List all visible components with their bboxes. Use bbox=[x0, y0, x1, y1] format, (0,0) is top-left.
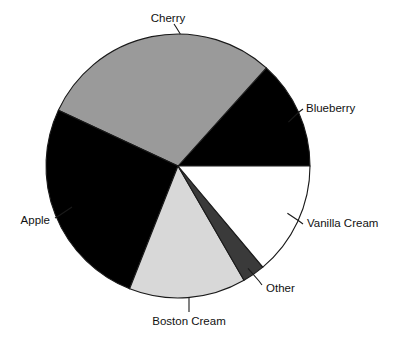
slice-label-other: Other bbox=[266, 282, 295, 294]
slice-label-blueberry: Blueberry bbox=[306, 102, 355, 114]
slice-label-vanilla-cream: Vanilla Cream bbox=[307, 217, 378, 229]
slice-label-apple: Apple bbox=[21, 214, 50, 226]
leader-line-cherry bbox=[174, 24, 180, 34]
pie-chart-canvas: BlueberryCherryAppleBoston CreamOtherVan… bbox=[0, 0, 395, 341]
slice-label-boston-cream: Boston Cream bbox=[152, 315, 226, 327]
slice-label-cherry: Cherry bbox=[151, 12, 186, 24]
pie-chart: BlueberryCherryAppleBoston CreamOtherVan… bbox=[0, 0, 395, 341]
pie-slices-group bbox=[46, 34, 310, 298]
